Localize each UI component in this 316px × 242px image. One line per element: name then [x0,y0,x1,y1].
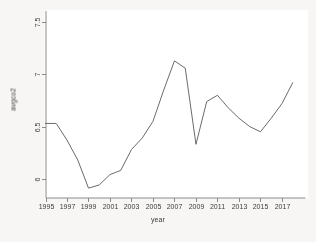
chart-figure: avgco2 year [0,0,316,242]
y-axis-title: avgco2 [10,78,17,122]
line-chart-plot [0,0,316,242]
x-axis-title: year [0,216,316,223]
